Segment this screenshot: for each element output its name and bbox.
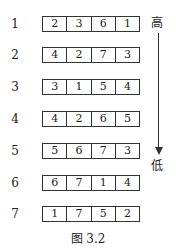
cell: 6	[67, 144, 91, 158]
down-arrow-icon	[158, 33, 159, 149]
row-label: 1	[9, 16, 21, 32]
row-cells: 3 1 5 4	[42, 79, 140, 95]
row-1: 1 2 3 6 1	[0, 16, 176, 32]
cell: 5	[92, 80, 116, 94]
cell: 2	[67, 112, 91, 126]
cell: 3	[67, 17, 91, 31]
row-label: 7	[9, 206, 21, 222]
cell: 6	[92, 112, 116, 126]
cell: 4	[116, 176, 139, 190]
high-label: 高	[151, 13, 163, 30]
row-cells: 4 2 7 3	[42, 47, 140, 63]
row-cells: 2 3 6 1	[42, 16, 140, 32]
row-5: 5 5 6 7 3	[0, 143, 176, 159]
figure-caption: 图 3.2	[0, 229, 176, 246]
cell: 3	[116, 48, 139, 62]
row-3: 3 3 1 5 4	[0, 79, 176, 95]
row-label: 3	[9, 79, 21, 95]
cell: 4	[43, 48, 67, 62]
cell: 4	[116, 80, 139, 94]
cell: 2	[67, 48, 91, 62]
row-label: 5	[9, 143, 21, 159]
row-cells: 5 6 7 3	[42, 143, 140, 159]
cell: 3	[43, 80, 67, 94]
cell: 7	[67, 176, 91, 190]
cell: 5	[92, 207, 116, 221]
cell: 3	[116, 144, 139, 158]
cell: 1	[92, 176, 116, 190]
cell: 6	[92, 17, 116, 31]
cell: 7	[92, 48, 116, 62]
row-4: 4 4 2 6 5	[0, 111, 176, 127]
row-cells: 6 7 1 4	[42, 175, 140, 191]
row-label: 6	[9, 175, 21, 191]
cell: 5	[116, 112, 139, 126]
row-label: 2	[9, 47, 21, 63]
low-label: 低	[151, 156, 163, 173]
cell: 7	[67, 207, 91, 221]
row-cells: 1 7 5 2	[42, 206, 140, 222]
row-7: 7 1 7 5 2	[0, 206, 176, 222]
cell: 1	[43, 207, 67, 221]
cell: 6	[43, 176, 67, 190]
row-2: 2 4 2 7 3	[0, 47, 176, 63]
cell: 7	[92, 144, 116, 158]
cell: 4	[43, 112, 67, 126]
row-label: 4	[9, 111, 21, 127]
arrow-head-icon	[155, 147, 163, 155]
cell: 2	[43, 17, 67, 31]
cell: 1	[67, 80, 91, 94]
row-cells: 4 2 6 5	[42, 111, 140, 127]
cell: 2	[116, 207, 139, 221]
cell: 1	[116, 17, 139, 31]
row-6: 6 6 7 1 4	[0, 175, 176, 191]
cell: 5	[43, 144, 67, 158]
